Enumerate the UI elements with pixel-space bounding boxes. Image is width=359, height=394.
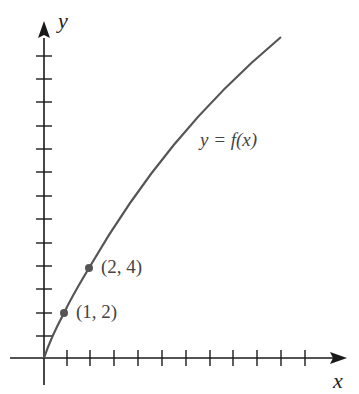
x-axis-label: x (333, 368, 343, 394)
point-1-2 (60, 309, 68, 317)
point-2-4 (85, 264, 93, 272)
y-axis-label: y (58, 8, 68, 34)
point-label-2-4: (2, 4) (101, 256, 142, 278)
graph-canvas (0, 0, 359, 394)
y-axis-arrow-icon (38, 21, 50, 38)
point-label-1-2: (1, 2) (76, 301, 117, 323)
curve-label: y = f(x) (200, 129, 257, 151)
graph-figure: y x y = f(x) (1, 2) (2, 4) (0, 0, 359, 394)
